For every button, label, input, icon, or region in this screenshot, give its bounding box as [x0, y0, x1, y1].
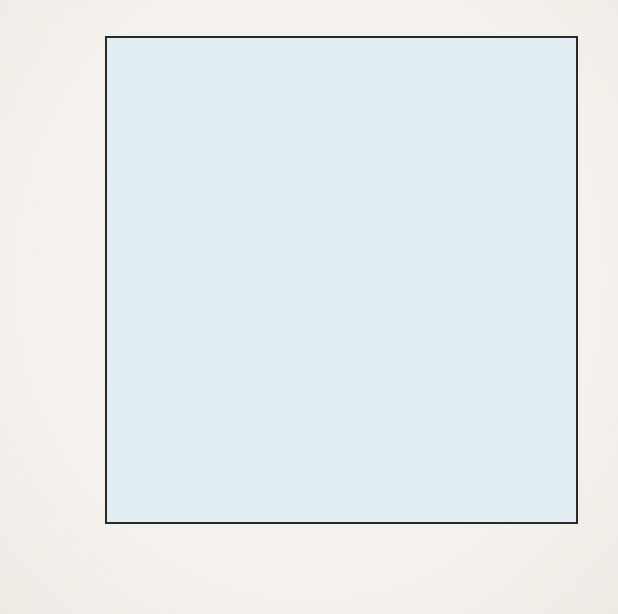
data-series-svg	[107, 38, 578, 524]
plot-area	[105, 36, 578, 524]
chart-figure	[0, 0, 618, 614]
